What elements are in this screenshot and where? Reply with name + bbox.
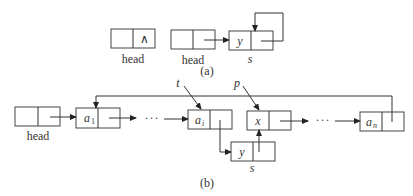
node-s-inserted: y s bbox=[231, 130, 275, 175]
svg-text:a: a bbox=[84, 111, 90, 125]
node-s-label: s bbox=[250, 161, 255, 175]
circular-link-arrow-icon bbox=[96, 96, 392, 122]
node-a1: a 1 bbox=[76, 108, 136, 128]
node-ai: a i bbox=[188, 110, 232, 152]
head-node-b: head bbox=[15, 107, 76, 143]
svg-text:n: n bbox=[373, 121, 377, 130]
head-label: head bbox=[122, 52, 145, 66]
caption-a: (a) bbox=[200, 64, 213, 78]
svg-text:a: a bbox=[195, 113, 201, 127]
pointer-p-label: p bbox=[233, 76, 240, 90]
svg-text:i: i bbox=[202, 119, 204, 128]
caption-b: (b) bbox=[200, 176, 214, 190]
arrow-to-s-icon bbox=[220, 120, 231, 152]
node-x: x bbox=[247, 111, 308, 130]
svg-text:y: y bbox=[238, 145, 245, 159]
null-symbol: ∧ bbox=[140, 32, 149, 46]
single-node-list: head y s bbox=[171, 13, 283, 67]
empty-list: ∧ head bbox=[111, 29, 155, 66]
pointer-p-arrow-icon bbox=[243, 86, 259, 110]
ellipsis: ··· bbox=[145, 111, 160, 125]
svg-text:1: 1 bbox=[91, 117, 95, 126]
head-label: head bbox=[27, 129, 50, 143]
node-an: a n bbox=[360, 112, 404, 131]
ellipsis: ··· bbox=[316, 113, 331, 127]
svg-text:a: a bbox=[366, 115, 372, 129]
node-value: y bbox=[236, 34, 243, 48]
pointer-t-arrow-icon bbox=[184, 86, 201, 109]
self-loop-arrow-icon bbox=[255, 13, 283, 41]
linked-list-diagram: ∧ head head y s (a) head a 1 ··· a i bbox=[0, 0, 413, 196]
svg-text:x: x bbox=[254, 114, 261, 128]
pointer-t-label: t bbox=[176, 76, 180, 90]
node-s-label: s bbox=[248, 52, 253, 66]
